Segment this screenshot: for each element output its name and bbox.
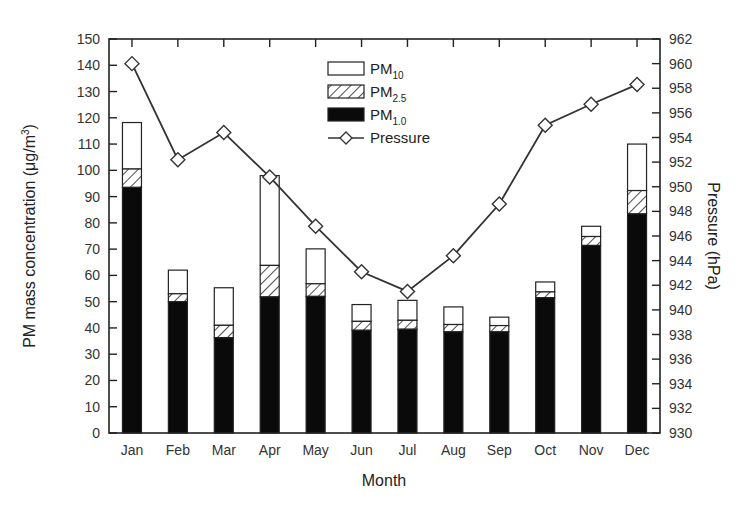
left-tick-label: 90 — [84, 189, 100, 205]
left-tick-label: 100 — [77, 162, 101, 178]
bar-pm10-segment — [398, 300, 417, 320]
x-tick-label-nov: Nov — [579, 442, 604, 458]
bar-pm25-segment — [306, 284, 325, 297]
bar-pm10-segment — [490, 317, 509, 325]
bar-stack-may — [306, 249, 325, 433]
pressure-marker-nov — [584, 97, 598, 111]
left-tick-label: 30 — [84, 346, 100, 362]
x-tick-label-may: May — [302, 442, 328, 458]
legend-item-pm10: PM10 — [328, 60, 404, 81]
bar-pm1-segment — [306, 296, 325, 433]
right-tick-label: 934 — [669, 376, 693, 392]
left-tick-label: 40 — [84, 320, 100, 336]
left-tick-label: 120 — [77, 110, 101, 126]
bar-series-group — [122, 123, 646, 433]
pressure-marker-jan — [125, 57, 139, 71]
x-tick-label-feb: Feb — [166, 442, 190, 458]
bar-pm10-segment — [582, 226, 601, 236]
x-tick-label-jan: Jan — [121, 442, 144, 458]
right-tick-label: 946 — [669, 228, 693, 244]
bar-pm25-segment — [628, 191, 647, 214]
right-tick-label: 942 — [669, 277, 693, 293]
right-y-axis: 9309329349369389409429449469489509529549… — [652, 31, 693, 441]
bar-pm10-segment — [444, 307, 463, 325]
legend-swatch-white — [328, 62, 364, 75]
x-tick-label-jul: Jul — [399, 442, 417, 458]
x-tick-label-sep: Sep — [487, 442, 512, 458]
legend-label: PM1.0 — [370, 106, 407, 127]
chart-legend: PM10PM2.5PM1.0Pressure — [328, 60, 430, 146]
left-tick-label: 10 — [84, 399, 100, 415]
right-tick-label: 952 — [669, 154, 693, 170]
legend-label: PM10 — [370, 60, 404, 81]
bar-stack-apr — [260, 176, 279, 433]
bar-pm1-segment — [490, 332, 509, 433]
right-y-axis-title: Pressure (hPa) — [705, 182, 722, 290]
left-y-axis: 0102030405060708090100110120130140150 — [77, 31, 117, 441]
bar-stack-oct — [536, 282, 555, 433]
bar-stack-feb — [168, 270, 187, 433]
bar-pm25-segment — [582, 237, 601, 246]
left-tick-label: 20 — [84, 372, 100, 388]
bar-stack-jan — [122, 123, 141, 433]
bar-pm1-segment — [582, 245, 601, 433]
right-tick-label: 932 — [669, 400, 693, 416]
bar-pm1-segment — [444, 332, 463, 433]
x-axis-title: Month — [362, 472, 406, 489]
x-tick-label-apr: Apr — [259, 442, 281, 458]
bar-stack-mar — [214, 288, 233, 433]
left-y-axis-title: PM mass concentration (μg/m3) — [20, 124, 38, 348]
bar-stack-dec — [628, 144, 647, 433]
bar-pm1-segment — [352, 330, 371, 433]
x-tick-label-oct: Oct — [534, 442, 556, 458]
right-tick-label: 956 — [669, 105, 693, 121]
right-tick-label: 936 — [669, 351, 693, 367]
bar-pm1-segment — [398, 329, 417, 433]
left-tick-label: 150 — [77, 31, 101, 47]
bar-pm25-segment — [168, 294, 187, 302]
bar-pm25-segment — [398, 320, 417, 329]
bar-pm1-segment — [536, 298, 555, 433]
right-tick-label: 954 — [669, 130, 693, 146]
x-tick-label-jun: Jun — [350, 442, 373, 458]
right-tick-label: 958 — [669, 80, 693, 96]
legend-item-pressure: Pressure — [328, 129, 430, 146]
left-tick-label: 130 — [77, 84, 101, 100]
bar-pm25-segment — [214, 325, 233, 337]
pressure-marker-oct — [538, 118, 552, 132]
pressure-marker-feb — [171, 153, 185, 167]
left-tick-label: 140 — [77, 57, 101, 73]
bar-stack-jul — [398, 300, 417, 433]
x-tick-label-dec: Dec — [625, 442, 650, 458]
legend-swatch-hatched — [328, 85, 364, 98]
bar-pm1-segment — [214, 338, 233, 433]
bar-stack-nov — [582, 226, 601, 433]
x-tick-label-aug: Aug — [441, 442, 466, 458]
right-tick-label: 960 — [669, 56, 693, 72]
left-tick-label: 0 — [92, 425, 100, 441]
diamond-marker-icon — [340, 132, 352, 144]
right-tick-label: 962 — [669, 31, 693, 47]
left-tick-label: 60 — [84, 267, 100, 283]
legend-item-pm25: PM2.5 — [328, 83, 407, 104]
bar-pm1-segment — [628, 214, 647, 433]
bar-pm25-segment — [444, 325, 463, 332]
legend-item-pm10: PM1.0 — [328, 106, 407, 127]
bar-pm1-segment — [168, 302, 187, 433]
left-tick-label: 80 — [84, 215, 100, 231]
bar-stack-sep — [490, 317, 509, 433]
bar-pm25-segment — [122, 169, 141, 187]
legend-label: PM2.5 — [370, 83, 407, 104]
bar-pm10-segment — [260, 176, 279, 266]
right-tick-label: 930 — [669, 425, 693, 441]
legend-swatch-black — [328, 108, 364, 121]
right-tick-label: 944 — [669, 253, 693, 269]
bar-pm10-segment — [214, 288, 233, 326]
left-tick-label: 50 — [84, 294, 100, 310]
pm-pressure-chart: 0102030405060708090100110120130140150 93… — [0, 0, 756, 508]
right-tick-label: 950 — [669, 179, 693, 195]
pressure-marker-dec — [630, 78, 644, 92]
bar-pm1-segment — [260, 297, 279, 433]
bar-pm10-segment — [352, 305, 371, 322]
left-tick-label: 110 — [78, 136, 101, 152]
